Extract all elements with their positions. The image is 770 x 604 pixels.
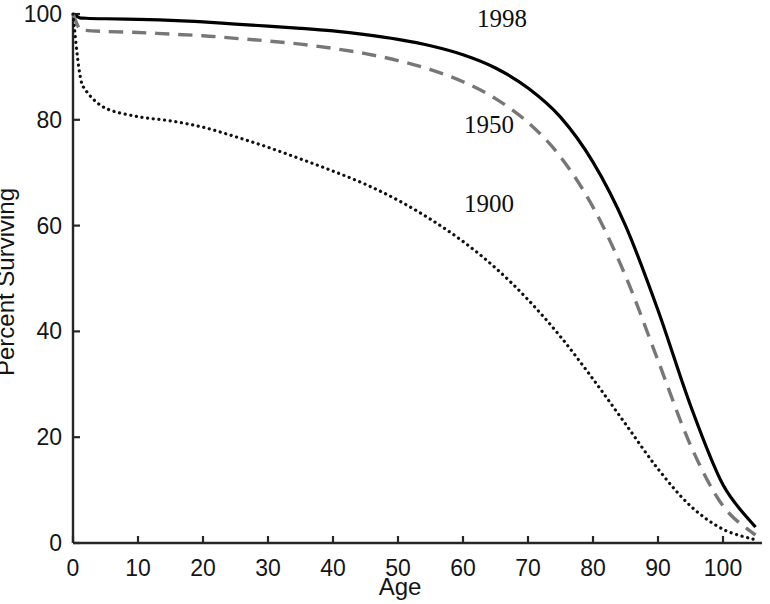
series-line-1900: [73, 14, 756, 540]
x-axis-tick-label: 40: [320, 555, 346, 582]
x-axis-tick-label: 30: [255, 555, 281, 582]
series-label-1900: 1900: [464, 190, 514, 218]
x-axis-tick-label: 0: [67, 555, 80, 582]
axis-lines: [73, 14, 762, 543]
series-line-1998: [73, 14, 756, 527]
x-axis-tick-label: 90: [645, 555, 671, 582]
series-label-1950: 1950: [464, 111, 514, 139]
series-label-1998: 1998: [477, 5, 527, 33]
x-axis-title: Age: [379, 573, 422, 601]
x-axis-tick-label: 80: [580, 555, 606, 582]
plot-canvas: [0, 0, 770, 604]
survival-curve-chart: 020406080100 0102030405060708090100 1998…: [0, 0, 770, 604]
x-axis-tick-label: 60: [450, 555, 476, 582]
data-series-group: [73, 14, 756, 540]
y-axis-tick-label: 0: [0, 530, 62, 557]
x-axis-tick-label: 10: [125, 555, 151, 582]
y-axis-tick-label: 100: [0, 1, 62, 28]
x-axis-tick-label: 70: [515, 555, 541, 582]
y-axis-tick-label: 80: [0, 106, 62, 133]
y-axis-title: Percent Surviving: [0, 188, 20, 376]
series-line-1950: [73, 14, 756, 535]
y-axis-tick-label: 20: [0, 424, 62, 451]
x-axis-tick-label: 100: [704, 555, 742, 582]
x-axis-tick-label: 20: [190, 555, 216, 582]
